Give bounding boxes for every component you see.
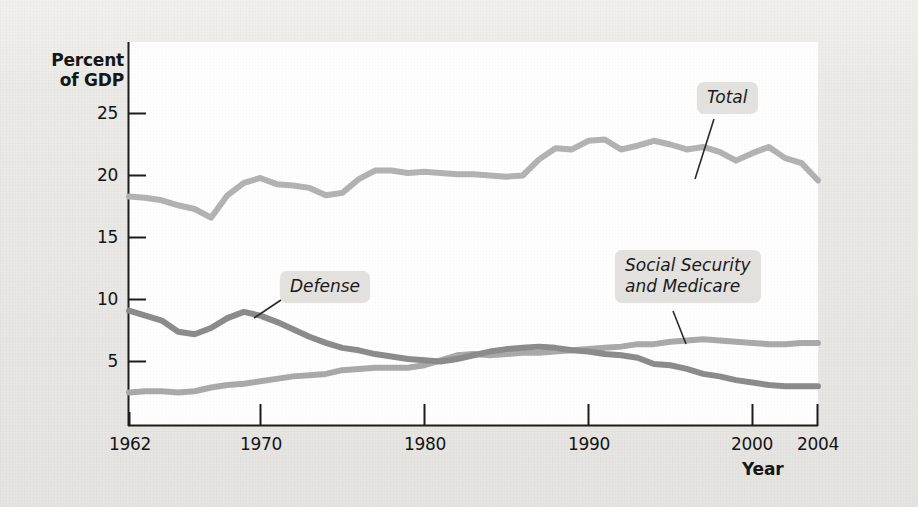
x-tick-label-1980: 1980 [387, 434, 463, 454]
x-tick-label-2000: 2000 [714, 434, 790, 454]
y-tick-label-25: 25 [64, 103, 118, 123]
x-tick-label-1962: 1962 [92, 434, 168, 454]
x-tick-label-2004: 2004 [780, 434, 856, 454]
chart-canvas [0, 0, 918, 507]
series-label-defense: Defense [280, 271, 370, 303]
y-tick-label-15: 15 [64, 227, 118, 247]
series-label-social-security: Social Security and Medicare [615, 250, 761, 303]
x-tick-label-1990: 1990 [551, 434, 627, 454]
y-tick-label-10: 10 [64, 289, 118, 309]
y-tick-label-5: 5 [64, 351, 118, 371]
y-tick-label-20: 20 [64, 165, 118, 185]
x-axis-title: Year [742, 459, 822, 479]
chart-figure: Percent of GDP Year 25 20 15 10 5 1962 1… [0, 0, 918, 507]
series-label-total: Total [697, 82, 758, 114]
y-axis-title: Percent of GDP [38, 50, 124, 90]
x-tick-label-1970: 1970 [223, 434, 299, 454]
